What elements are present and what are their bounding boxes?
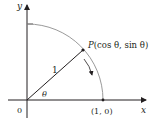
quarter-arc <box>27 24 103 100</box>
point-p-label: P(cos θ, sin θ) <box>87 40 148 50</box>
origin-label: 0 <box>17 106 22 115</box>
unit-circle-diagram: y x 0 (1, 0) 1 θ P(cos θ, sin θ) <box>0 0 161 135</box>
clockwise-arrow-icon <box>84 59 92 75</box>
point-p <box>81 48 84 51</box>
point-1-0 <box>102 99 105 102</box>
radius-line <box>27 50 83 100</box>
intercept-label: (1, 0) <box>91 107 113 116</box>
x-axis-label: x <box>141 105 146 115</box>
radius-label: 1 <box>52 65 58 75</box>
y-axis-label: y <box>16 1 23 11</box>
angle-label: θ <box>42 90 47 99</box>
